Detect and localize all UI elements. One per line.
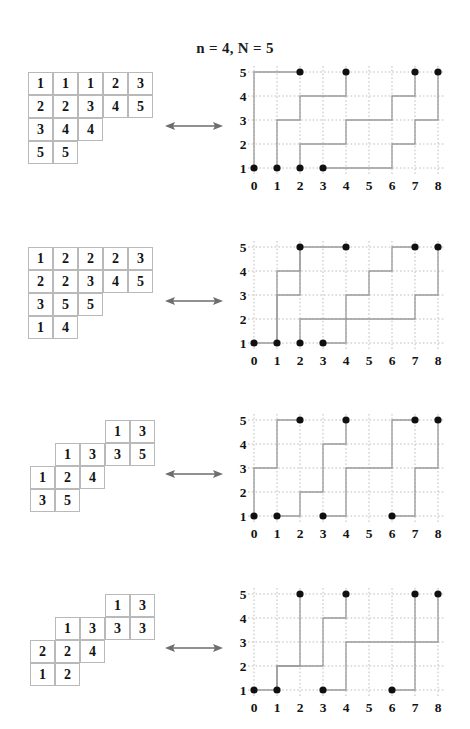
x-tick-label: 0 [251, 178, 258, 193]
tableau-cell: 1 [78, 72, 103, 95]
y-axis-tick-labels: 12345 [240, 240, 247, 351]
x-tick-label: 7 [412, 700, 419, 715]
x-tick-label: 0 [251, 353, 258, 368]
endpoint-dot [250, 686, 257, 693]
x-tick-label: 7 [412, 353, 419, 368]
y-tick-label: 5 [240, 587, 247, 602]
endpoint-dot [250, 164, 257, 171]
tableau-cell: 3 [80, 617, 105, 640]
tableau-cell: 4 [53, 316, 78, 339]
tableau-cell: 1 [28, 72, 53, 95]
x-tick-label: 5 [366, 700, 373, 715]
tableau-cell: 1 [55, 443, 80, 466]
lattice-path-chart: 01234567812345 [232, 235, 470, 395]
tableau-cell: 3 [28, 293, 53, 316]
x-tick-label: 0 [251, 526, 258, 541]
y-tick-label: 3 [240, 288, 247, 303]
tableau-cell: 3 [30, 489, 55, 512]
y-tick-label: 4 [240, 89, 247, 104]
double-headed-arrow-icon [165, 297, 223, 305]
tableau-path-pair: 1313351243501234567812345 [0, 408, 470, 568]
correspondence-arrow [163, 60, 233, 220]
endpoint-dot [273, 686, 280, 693]
endpoint-dot [250, 339, 257, 346]
x-tick-label: 1 [274, 700, 281, 715]
y-tick-label: 2 [240, 659, 247, 674]
tableau-cell: 2 [103, 247, 128, 270]
x-tick-label: 6 [389, 178, 396, 193]
path-series-group [254, 420, 438, 516]
endpoint-dot [319, 164, 326, 171]
lattice-path-chart: 01234567812345 [232, 582, 470, 729]
endpoint-dot [319, 512, 326, 519]
tableau-cell: 5 [53, 293, 78, 316]
y-tick-label: 1 [240, 161, 247, 176]
tableau-cell: 4 [78, 118, 103, 141]
tableau-holder: 13133322412 [0, 582, 185, 729]
correspondence-arrow [163, 235, 233, 395]
tableau-cell: 4 [53, 118, 78, 141]
tableau-cell: 2 [78, 247, 103, 270]
endpoint-dot [296, 416, 303, 423]
tableau-cell: 3 [80, 443, 105, 466]
endpoint-dot [342, 416, 349, 423]
tableau-cell: 5 [55, 489, 80, 512]
tableau-cell: 3 [78, 270, 103, 293]
tableau-cell: 2 [28, 270, 53, 293]
y-tick-label: 1 [240, 336, 247, 351]
page-title: n = 4, N = 5 [0, 40, 470, 57]
double-headed-arrow-icon [165, 122, 223, 130]
tableau-cell: 3 [105, 617, 130, 640]
tableau-holder: 13133512435 [0, 408, 185, 568]
y-tick-label: 4 [240, 611, 247, 626]
endpoint-dot [319, 686, 326, 693]
x-tick-label: 6 [389, 353, 396, 368]
x-tick-label: 5 [366, 353, 373, 368]
x-tick-label: 1 [274, 178, 281, 193]
y-tick-label: 2 [240, 137, 247, 152]
x-axis-tick-labels: 012345678 [251, 700, 442, 715]
tableau-cell: 2 [53, 270, 78, 293]
tableau-cell: 5 [53, 141, 78, 164]
endpoint-dot [296, 164, 303, 171]
tableau-cell: 3 [130, 594, 155, 617]
endpoint-dot [388, 686, 395, 693]
x-tick-label: 8 [435, 700, 442, 715]
y-tick-label: 2 [240, 485, 247, 500]
tableau-cell: 1 [105, 420, 130, 443]
x-tick-label: 3 [320, 178, 327, 193]
tableau-cell: 1 [30, 466, 55, 489]
endpoint-dot [342, 243, 349, 250]
x-tick-label: 2 [297, 700, 304, 715]
x-tick-label: 3 [320, 700, 327, 715]
tableau-cell: 3 [128, 247, 153, 270]
tableau-cell: 2 [53, 95, 78, 118]
x-tick-label: 4 [343, 178, 350, 193]
y-tick-label: 5 [240, 65, 247, 80]
tableau-holder: 122232234535514 [0, 235, 185, 395]
tableau-cell: 4 [103, 95, 128, 118]
endpoint-dot [296, 68, 303, 75]
endpoint-dot [342, 68, 349, 75]
x-axis-tick-labels: 012345678 [251, 353, 442, 368]
tableau-cell: 3 [78, 95, 103, 118]
x-tick-label: 8 [435, 526, 442, 541]
tableau-path-pair: 1313332241201234567812345 [0, 582, 470, 729]
tableau-cell: 5 [28, 141, 53, 164]
correspondence-arrow [163, 408, 233, 568]
tableau-cell: 3 [130, 420, 155, 443]
double-headed-arrow-icon [165, 644, 223, 652]
x-tick-label: 8 [435, 353, 442, 368]
endpoint-dot [411, 590, 418, 597]
y-tick-label: 5 [240, 413, 247, 428]
y-tick-label: 3 [240, 635, 247, 650]
endpoint-dot [296, 590, 303, 597]
tableau-cell: 5 [128, 95, 153, 118]
tableau-cell: 1 [53, 72, 78, 95]
x-tick-label: 7 [412, 178, 419, 193]
endpoint-dot [411, 416, 418, 423]
x-tick-label: 4 [343, 700, 350, 715]
endpoint-dot [273, 512, 280, 519]
endpoint-dot [434, 416, 441, 423]
endpoint-dot [411, 68, 418, 75]
